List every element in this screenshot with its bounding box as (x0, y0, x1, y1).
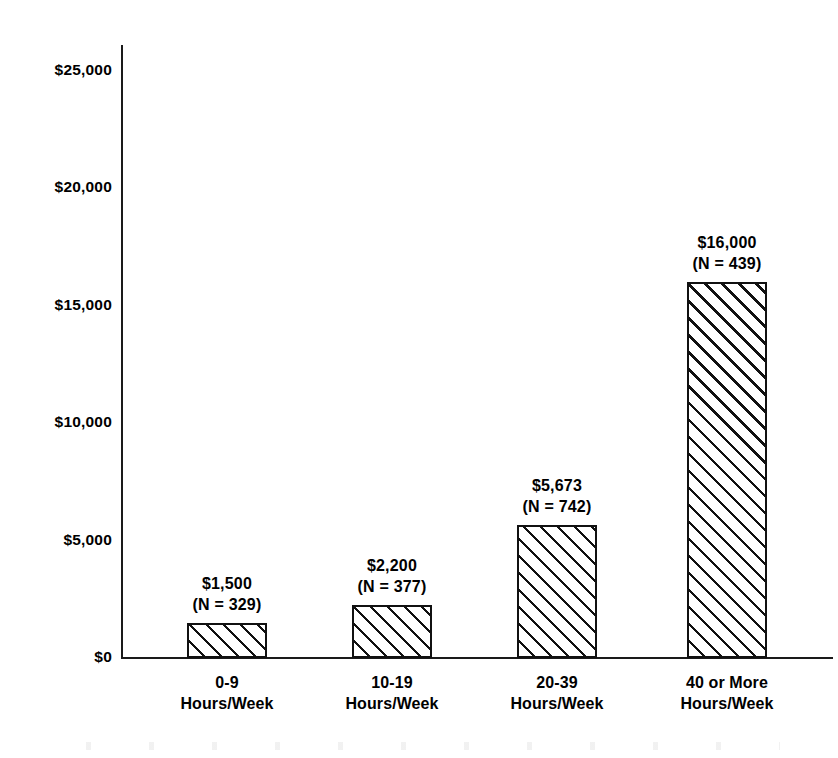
bar-value-0-9-hours: $1,500 (157, 573, 297, 594)
category-label-20-39-hours: 20-39 Hours/Week (487, 672, 627, 715)
bar-n-10-19-hours: (N = 377) (322, 576, 462, 597)
bar-20-39-hours[interactable] (517, 525, 597, 658)
y-tick-label-5000: $5,000 (2, 531, 112, 549)
category-label-10-19-hours-line2: Hours/Week (322, 693, 462, 714)
category-label-0-9-hours-line2: Hours/Week (157, 693, 297, 714)
y-tick-label-10000: $10,000 (2, 413, 112, 431)
y-axis-labels: $25,000 $20,000 $15,000 $10,000 $5,000 $… (0, 0, 112, 758)
bar-label-40-or-more-hours: $16,000 (N = 439) (657, 232, 797, 274)
scan-artifacts (60, 742, 780, 750)
y-tick-label-20000: $20,000 (2, 178, 112, 196)
category-label-40-or-more-hours-line1: 40 or More (652, 672, 802, 693)
category-label-0-9-hours: 0-9 Hours/Week (157, 672, 297, 715)
bar-0-9-hours[interactable] (187, 623, 267, 658)
bar-40-or-more-hours[interactable] (687, 282, 767, 658)
bar-n-20-39-hours: (N = 742) (487, 496, 627, 517)
bar-chart: $25,000 $20,000 $15,000 $10,000 $5,000 $… (0, 0, 838, 758)
bar-n-0-9-hours: (N = 329) (157, 594, 297, 615)
y-tick-label-15000: $15,000 (2, 296, 112, 314)
category-label-0-9-hours-line1: 0-9 (157, 672, 297, 693)
bar-10-19-hours[interactable] (352, 605, 432, 658)
category-label-10-19-hours-line1: 10-19 (322, 672, 462, 693)
category-label-40-or-more-hours-line2: Hours/Week (652, 693, 802, 714)
y-axis-line (121, 45, 123, 659)
bar-value-40-or-more-hours: $16,000 (657, 232, 797, 253)
y-tick-label-0: $0 (2, 648, 112, 666)
category-label-10-19-hours: 10-19 Hours/Week (322, 672, 462, 715)
bar-label-20-39-hours: $5,673 (N = 742) (487, 475, 627, 517)
category-label-40-or-more-hours: 40 or More Hours/Week (652, 672, 802, 715)
bar-value-20-39-hours: $5,673 (487, 475, 627, 496)
bar-value-10-19-hours: $2,200 (322, 555, 462, 576)
y-tick-label-25000: $25,000 (2, 61, 112, 79)
category-label-20-39-hours-line1: 20-39 (487, 672, 627, 693)
bar-label-10-19-hours: $2,200 (N = 377) (322, 555, 462, 597)
bar-label-0-9-hours: $1,500 (N = 329) (157, 573, 297, 615)
category-label-20-39-hours-line2: Hours/Week (487, 693, 627, 714)
bar-n-40-or-more-hours: (N = 439) (657, 253, 797, 274)
